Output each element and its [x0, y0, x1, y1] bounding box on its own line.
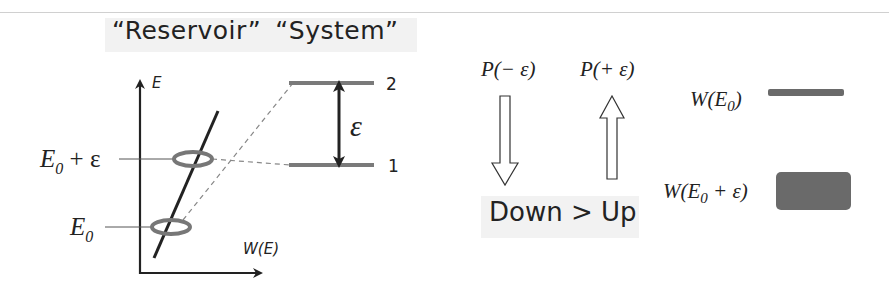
hollow-arrow-up-icon: [600, 96, 624, 179]
prob-down-label: P(− ε): [480, 57, 536, 81]
energy-axis-label: E: [152, 74, 162, 92]
w-e0-eps-box: [776, 172, 851, 210]
hollow-arrow-down-icon: [492, 96, 518, 185]
label-e0-plus-eps: E0 + ε: [39, 145, 100, 177]
system-level-1-label: 1: [388, 156, 399, 176]
system-levels: 2 1 ε: [289, 74, 399, 176]
ellipse-upper-state: [174, 152, 212, 166]
density-axis-label: W(E): [243, 240, 279, 258]
w-e0-eps-label: W(E0 + ε): [663, 179, 748, 206]
gap-epsilon-label: ε: [350, 109, 362, 142]
comparison-label: Down > Up: [489, 197, 637, 227]
label-e0: E0: [69, 213, 93, 245]
diagram-canvas: E W(E) E0 + ε E0 2 1 ε P(− ε) P(+ ε) W(E…: [0, 0, 889, 291]
w-e0-bar: [768, 89, 844, 96]
prob-up-label: P(+ ε): [579, 57, 635, 81]
system-level-2-label: 2: [386, 74, 397, 94]
dashed-connector-level1: [212, 159, 290, 165]
density-curve: [154, 111, 218, 258]
w-e0-label: W(E0): [690, 87, 742, 114]
